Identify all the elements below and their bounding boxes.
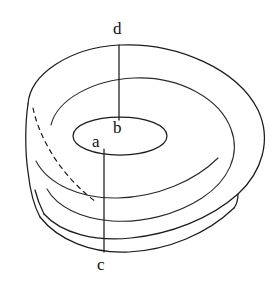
inner-wall-bottom-arc xyxy=(36,158,218,198)
outer-bottom-rim-arc xyxy=(40,208,234,252)
middle-top-rim-arc xyxy=(47,78,234,221)
label-d: d xyxy=(113,20,122,37)
outer-top-rim-arc xyxy=(28,45,264,239)
label-c: c xyxy=(97,256,105,273)
figure-canvas: d b a c xyxy=(0,0,279,281)
annulus-diagram-svg xyxy=(0,0,279,281)
label-a: a xyxy=(92,133,100,150)
label-b: b xyxy=(113,119,122,136)
